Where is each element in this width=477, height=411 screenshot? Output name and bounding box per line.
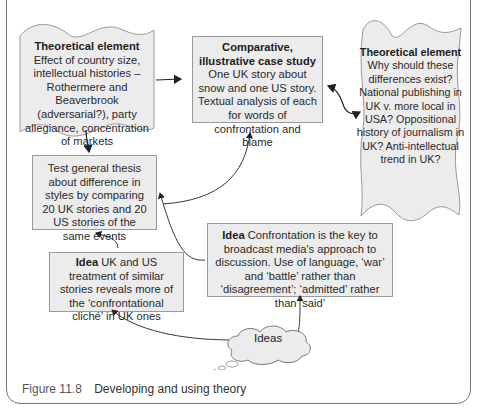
theoretical-element-right: Theoretical element Why should these dif… bbox=[353, 20, 468, 225]
node-text: Effect of country size, intellectual his… bbox=[25, 54, 149, 148]
node-text: Why should these differences exist? Nati… bbox=[357, 59, 464, 165]
idea-confrontation-box: Idea Confrontation is the key to broadca… bbox=[207, 223, 393, 297]
node-heading: Theoretical element bbox=[360, 46, 461, 58]
figure-number: Figure 11.8 bbox=[22, 382, 82, 396]
node-heading: Idea bbox=[76, 256, 98, 268]
case-study-box: Comparative, illustrative case study One… bbox=[192, 36, 323, 123]
idea-uk-us-box: Idea UK and US treatment of similar stor… bbox=[49, 252, 184, 312]
thought-cloud-icon bbox=[210, 320, 320, 370]
test-thesis-box: Test general thesis about difference in … bbox=[32, 155, 157, 230]
figure-title: Developing and using theory bbox=[94, 382, 246, 396]
ideas-cloud-label: Ideas bbox=[254, 332, 282, 344]
node-heading: Idea bbox=[222, 229, 244, 241]
node-heading: Theoretical element bbox=[34, 40, 139, 52]
figure-caption: Figure 11.8 Developing and using theory bbox=[22, 382, 246, 396]
node-text: Test general thesis about difference in … bbox=[42, 162, 146, 242]
theoretical-element-left: Theoretical element Effect of country si… bbox=[18, 22, 156, 140]
node-heading: Comparative, illustrative case study bbox=[199, 41, 316, 67]
